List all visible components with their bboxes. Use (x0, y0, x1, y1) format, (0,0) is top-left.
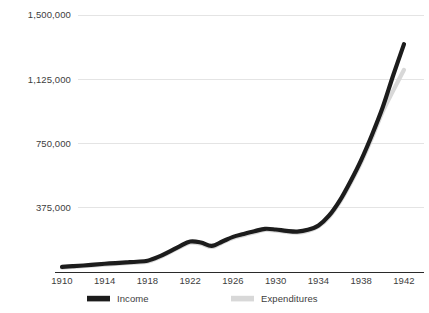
x-tick-label: 1922 (179, 275, 201, 286)
y-tick-label: 750,000 (36, 138, 71, 149)
y-axis-tick-labels: 375,000750,0001,125,0001,500,000 (28, 9, 71, 213)
x-tick-label: 1910 (51, 275, 73, 286)
y-tick-label: 1,125,000 (28, 74, 71, 85)
line-chart: 375,000750,0001,125,0001,500,000 1910191… (0, 0, 429, 313)
chart-container: 375,000750,0001,125,0001,500,000 1910191… (0, 0, 429, 313)
x-tick-label: 1930 (265, 275, 287, 286)
x-tick-label: 1938 (350, 275, 372, 286)
x-tick-label: 1918 (137, 275, 159, 286)
series-line-income (62, 44, 404, 267)
y-tick-label: 1,500,000 (28, 9, 71, 20)
legend-item-expenditures[interactable]: Expenditures (231, 293, 318, 304)
x-tick-label: 1926 (222, 275, 244, 286)
legend-item-income[interactable]: Income (87, 293, 149, 304)
gridlines (78, 15, 424, 208)
x-tick-label: 1942 (393, 275, 415, 286)
legend-swatch-income (87, 296, 110, 302)
x-tick-label: 1934 (308, 275, 330, 286)
legend-swatch-expenditures (231, 296, 254, 302)
y-tick-label: 375,000 (36, 202, 71, 213)
data-series (62, 44, 404, 267)
chart-legend: IncomeExpenditures (87, 293, 318, 304)
legend-label-expenditures: Expenditures (261, 293, 318, 304)
x-tick-label: 1914 (94, 275, 116, 286)
legend-label-income: Income (117, 293, 149, 304)
x-axis-tick-labels: 191019141918192219261930193419381942 (51, 275, 415, 286)
